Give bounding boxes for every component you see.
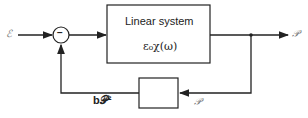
feedback-output-label: b𝒫²	[93, 94, 111, 107]
output-label: 𝒫	[292, 28, 299, 40]
summing-junction-sign: −	[57, 27, 63, 38]
input-label: ℰ	[6, 28, 12, 39]
feedback-block-diagram: ℰ − Linear system ε₀χ(ω) 𝒫 𝒫 b𝒫²	[0, 0, 308, 118]
main-block-transfer: ε₀χ(ω)	[143, 40, 177, 53]
feedback-input-label: 𝒫	[194, 96, 201, 108]
main-block-title: Linear system	[125, 15, 193, 27]
